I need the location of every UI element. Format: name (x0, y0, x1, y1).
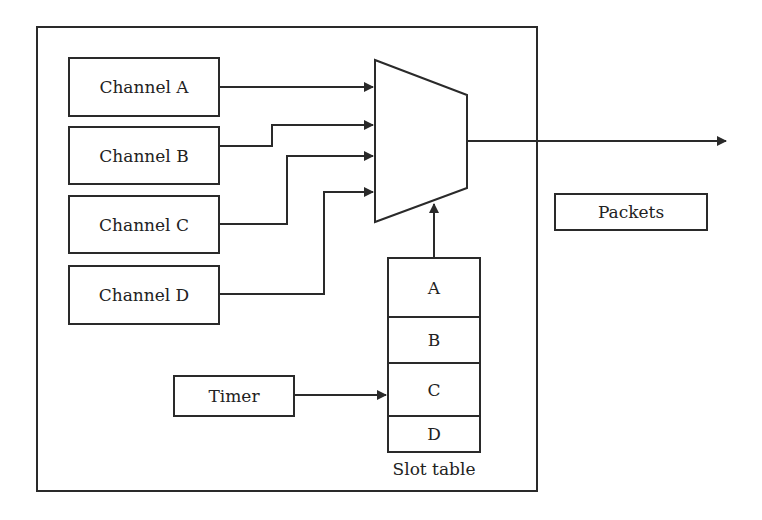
channel-d-box: Channel D (68, 265, 220, 325)
slot-b-label: B (428, 330, 441, 350)
slot-table-caption: Slot table (378, 456, 490, 482)
slot-a-label: A (428, 278, 440, 298)
channel-a-label: Channel A (99, 77, 188, 97)
arrow-channel-d (219, 192, 373, 294)
channel-b-box: Channel B (68, 126, 220, 185)
channel-b-label: Channel B (99, 146, 188, 166)
channel-d-label: Channel D (99, 285, 190, 305)
channel-c-box: Channel C (68, 195, 220, 254)
channel-c-label: Channel C (99, 215, 189, 235)
packets-box: Packets (554, 193, 708, 231)
slot-c-label: C (427, 380, 440, 400)
multiplexer (375, 60, 467, 222)
channel-a-box: Channel A (68, 57, 220, 117)
packets-label: Packets (598, 202, 664, 222)
slot-d: D (388, 416, 480, 452)
arrow-channel-c (219, 156, 373, 224)
timer-label: Timer (208, 386, 259, 406)
arrow-channel-b (219, 125, 373, 146)
slot-d-label: D (427, 424, 441, 444)
slot-c: C (388, 363, 480, 416)
slot-table-caption-text: Slot table (393, 459, 476, 479)
timer-box: Timer (173, 375, 295, 417)
slot-b: B (388, 317, 480, 363)
slot-a: A (388, 258, 480, 317)
